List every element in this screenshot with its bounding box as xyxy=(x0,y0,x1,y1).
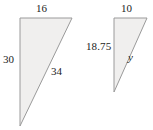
similar-triangles-figure: 16 30 34 10 18.75 y xyxy=(0,0,153,130)
left-triangle-leg-label: 30 xyxy=(3,54,14,65)
right-triangle-hypotenuse-label: y xyxy=(128,52,133,63)
right-triangle-leg-label: 18.75 xyxy=(86,41,111,52)
left-triangle-top-label: 16 xyxy=(36,3,47,14)
triangles-svg xyxy=(0,0,153,130)
left-triangle-hypotenuse-label: 34 xyxy=(51,66,62,77)
right-triangle-top-label: 10 xyxy=(121,3,132,14)
left-triangle-shape xyxy=(20,18,72,126)
